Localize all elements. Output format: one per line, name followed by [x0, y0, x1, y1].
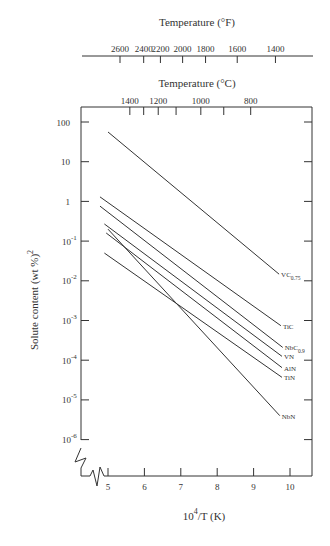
y-axis-ticks: 10010110-110-210-310-410-510-6 — [57, 118, 313, 446]
y-tick-label: 10 — [61, 157, 71, 167]
series-label-vn: VN — [284, 353, 294, 361]
series-label-tic: TiC — [283, 323, 294, 331]
series-line-vn — [104, 224, 282, 356]
x-tick-label: 9 — [251, 482, 256, 492]
celsius-tick-label: 1000 — [192, 96, 211, 106]
celsius-ticks: 140012001000800 — [121, 96, 258, 115]
x-tick-label: 7 — [179, 482, 184, 492]
fahrenheit-tick-label: 2400 — [135, 44, 154, 54]
series-line-vc — [108, 132, 279, 274]
y-tick-label: 100 — [57, 118, 71, 128]
fahrenheit-axis-title: Temperature (°F) — [159, 16, 235, 29]
celsius-axis-title: Temperature (°C) — [158, 77, 236, 90]
series-label-aln: AlN — [284, 365, 296, 373]
series-line-aln — [106, 233, 282, 368]
y-tick-label: 10-5 — [62, 392, 77, 405]
x-tick-label: 5 — [106, 482, 111, 492]
y-tick-label: 10-2 — [62, 273, 77, 286]
series-label-vc: VC0.75 — [281, 271, 301, 281]
data-series: VC0.75TiCNbC0.9VNAlNTiNNbN — [100, 132, 305, 421]
y-axis-label: Solute content (wt %)2 — [26, 250, 41, 350]
series-label-nbn: NbN — [282, 413, 296, 421]
fahrenheit-tick-label: 2600 — [111, 44, 130, 54]
fahrenheit-tick-label: 2000 — [174, 44, 193, 54]
x-axis-break — [90, 467, 104, 486]
y-tick-label: 10-4 — [62, 353, 77, 366]
x-tick-label: 6 — [142, 482, 147, 492]
chart: Temperature (°F) 26002400220020001800160… — [0, 0, 330, 546]
fahrenheit-tick-label: 2200 — [151, 44, 170, 54]
x-axis-label: 104/T (K) — [183, 507, 226, 523]
celsius-tick-label: 1400 — [121, 96, 140, 106]
fahrenheit-ticks: 2600240022002000180016001400 — [111, 44, 285, 63]
series-line-tic — [100, 197, 281, 326]
x-tick-label: 10 — [286, 482, 296, 492]
y-tick-label: 10-1 — [62, 234, 77, 247]
series-label-tin: TiN — [284, 374, 295, 382]
x-axis-ticks: 5678910 — [106, 468, 295, 492]
series-line-tin — [104, 253, 282, 377]
fahrenheit-tick-label: 1400 — [266, 44, 285, 54]
y-axis-break — [75, 448, 90, 476]
plot-frame — [81, 107, 312, 476]
celsius-tick-label: 800 — [244, 96, 258, 106]
fahrenheit-tick-label: 1600 — [228, 44, 247, 54]
x-tick-label: 8 — [215, 482, 220, 492]
y-tick-label: 10-3 — [62, 313, 77, 326]
y-tick-label: 10-6 — [62, 432, 77, 445]
fahrenheit-tick-label: 1800 — [197, 44, 216, 54]
series-line-nbn — [108, 229, 280, 416]
series-line-nbc — [100, 206, 283, 347]
celsius-tick-label: 1200 — [149, 96, 168, 106]
y-tick-label: 1 — [66, 197, 71, 207]
